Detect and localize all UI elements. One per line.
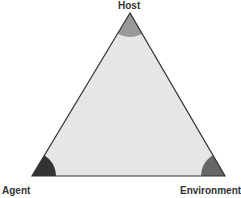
triangle-diagram [0,0,241,198]
environment-label: Environment [180,185,241,196]
host-label: Host [118,0,140,11]
agent-label: Agent [2,185,30,196]
triangle-body [32,13,225,176]
